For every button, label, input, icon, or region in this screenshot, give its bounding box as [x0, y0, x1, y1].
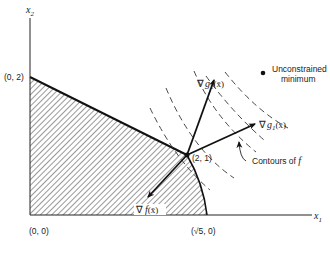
contours-label: Contours of f	[252, 155, 302, 166]
feasible-region	[30, 77, 207, 215]
optimum-point	[185, 153, 190, 158]
f-arg: (x̄)	[148, 205, 159, 215]
nabla-f: ∇	[135, 204, 143, 215]
g1-arg: (x̄)	[276, 120, 287, 130]
point-label-sqrt5-0: (√5, 0)	[191, 226, 216, 236]
g2-arg: (x̄)	[214, 79, 225, 89]
x1-label-sub: 1	[318, 216, 322, 224]
grad-g2-label: ∇g2(x̄)	[196, 78, 224, 91]
nabla-g1: ∇	[258, 119, 266, 130]
diagram-canvas: Unconstrained minimum Contours of f x2 x…	[0, 0, 330, 256]
x2-axis-label: x2	[25, 4, 34, 18]
grad-f-label: ∇f(x̄)	[135, 204, 158, 215]
nabla-g2: ∇	[196, 78, 204, 89]
point-label-2-1: (2, 1)	[192, 153, 212, 163]
contours-text: Contours of	[252, 156, 298, 166]
x1-axis-label: x1	[313, 210, 322, 224]
contours-f: f	[298, 155, 302, 166]
point-label-origin: (0, 0)	[29, 226, 49, 236]
point-label-0-2: (0, 2)	[4, 72, 24, 82]
grad-g1-label: ∇g1(x̄)	[258, 119, 286, 132]
unconstrained-label-2: minimum	[281, 74, 315, 84]
contours-leader-arrow	[239, 142, 246, 161]
x2-label-sub: 2	[30, 10, 34, 18]
unconstrained-minimum-dot	[261, 71, 266, 76]
unconstrained-label-1: Unconstrained	[272, 64, 327, 74]
